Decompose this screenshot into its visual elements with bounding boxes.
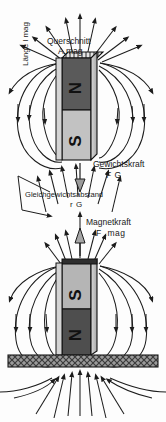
cross-section-symbol-label: A.mag: [58, 47, 83, 56]
lower-magnet-north-pole-label: N: [66, 329, 86, 341]
upper-magnet-south-pole-label: S: [66, 135, 86, 146]
cross-section-label: Querschnitt: [47, 37, 90, 46]
weight-force-label: Gewichtskraft: [93, 160, 145, 169]
equilibrium-distance-symbol-label: r G: [70, 201, 83, 209]
below-ground-field-lines: [0, 372, 166, 418]
upper-magnet-north-pole-label: N: [66, 82, 86, 94]
magnetic-force-symbol-label: F .mag: [96, 229, 125, 238]
magnet-levitation-diagram: Querschnitt A.mag Länge l mag Gewichtskr…: [0, 0, 166, 422]
lower-magnet-south-pole-label: S: [66, 289, 86, 300]
length-label: Länge l mag: [22, 14, 30, 74]
hatched-ground-surface: [8, 355, 158, 367]
weight-force-symbol-label: F G: [106, 171, 122, 180]
equilibrium-distance-label: Gleichgewichtsabstand: [25, 191, 103, 199]
magnetic-force-arrow: [75, 228, 85, 256]
magnetic-force-label: Magnetkraft: [86, 218, 131, 227]
